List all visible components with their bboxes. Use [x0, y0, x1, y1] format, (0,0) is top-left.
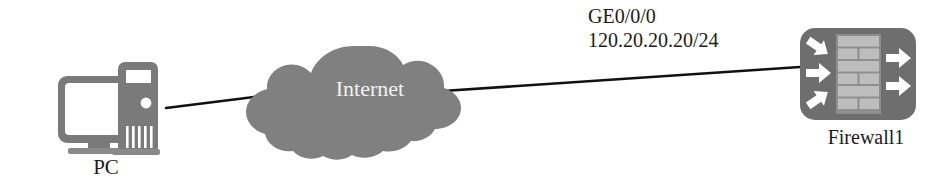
- cloud-label: Internet: [290, 76, 450, 102]
- network-topology-diagram: Internet PC Firewall1 GE0/0/0 120.20.20.…: [0, 0, 950, 183]
- pc-drive-bay: [126, 70, 151, 83]
- link-internet-to-firewall1: [428, 67, 800, 92]
- firewall-brick-wall: [836, 34, 881, 114]
- pc-power-button: [141, 98, 152, 109]
- firewall-label: Firewall1: [786, 126, 946, 149]
- cloud-icon: [246, 46, 461, 160]
- link-annotation: GE0/0/0 120.20.20.20/24: [588, 4, 719, 52]
- interface-ip-address: 120.20.20.20/24: [588, 28, 719, 52]
- interface-name: GE0/0/0: [588, 4, 719, 28]
- pc-label: PC: [46, 155, 166, 180]
- cloud-shape: [246, 46, 461, 160]
- pc-icon: [58, 62, 160, 155]
- firewall-icon: [800, 28, 916, 120]
